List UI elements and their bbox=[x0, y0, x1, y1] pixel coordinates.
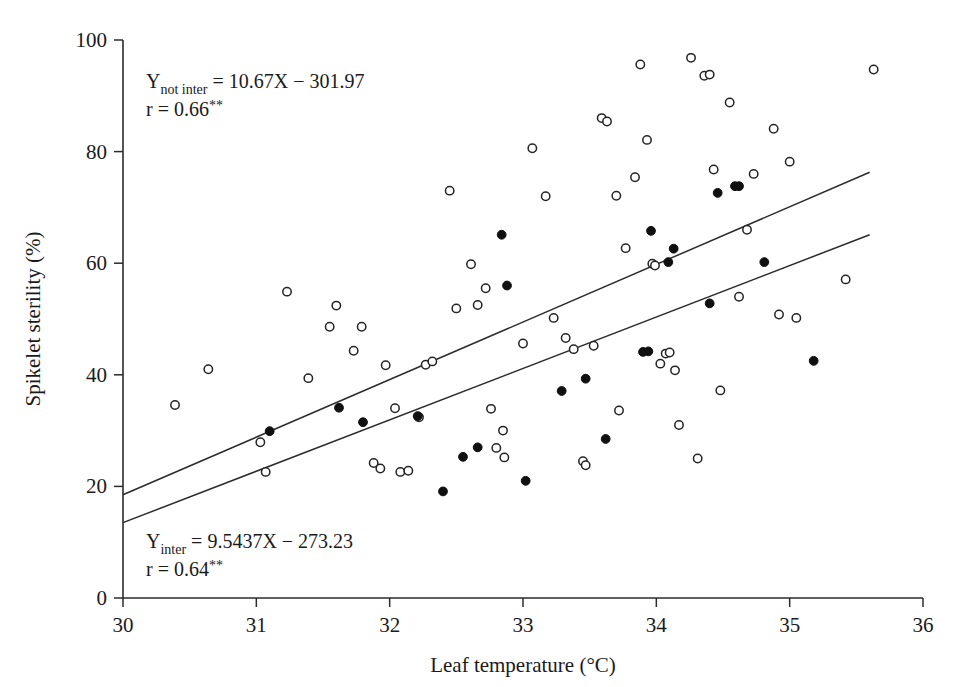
data-point bbox=[603, 117, 611, 125]
data-point bbox=[467, 260, 475, 268]
annotation-top-r: r = 0.66** bbox=[146, 98, 223, 120]
y-tick-label-100: 100 bbox=[76, 28, 108, 52]
annotation-bottom-rest: = 9.5437X − 273.23 bbox=[186, 530, 353, 552]
y-tick-label-60: 60 bbox=[86, 251, 107, 275]
data-point bbox=[775, 310, 783, 318]
annotation-top-equation: Ynot inter = 10.67X − 301.97 bbox=[146, 70, 365, 97]
annotation-intercepted: Yinter = 9.5437X − 273.23 r = 0.64** bbox=[146, 530, 353, 580]
data-point bbox=[735, 182, 744, 191]
data-point bbox=[499, 426, 507, 434]
data-point bbox=[171, 401, 179, 409]
data-point bbox=[601, 435, 610, 444]
data-point bbox=[841, 275, 849, 283]
data-point bbox=[769, 125, 777, 133]
data-point bbox=[749, 170, 757, 178]
y-tick-label-40: 40 bbox=[86, 363, 107, 387]
data-point bbox=[528, 144, 536, 152]
y-axis-title: Spikelet sterility (%) bbox=[21, 232, 45, 407]
regression-lines bbox=[123, 172, 870, 522]
data-point bbox=[283, 287, 291, 295]
data-point bbox=[705, 299, 714, 308]
data-point bbox=[665, 348, 673, 356]
x-tick-label-31: 31 bbox=[246, 613, 267, 637]
data-point bbox=[809, 356, 818, 365]
data-point bbox=[612, 191, 620, 199]
annotation-top-subscript: not inter bbox=[160, 82, 207, 97]
data-point bbox=[261, 468, 269, 476]
x-tick-label-30: 30 bbox=[113, 613, 134, 637]
data-point bbox=[705, 70, 713, 78]
data-point bbox=[481, 284, 489, 292]
data-point bbox=[561, 334, 569, 342]
annotation-top-rest: = 10.67X − 301.97 bbox=[208, 70, 365, 92]
data-point bbox=[581, 461, 589, 469]
data-point bbox=[621, 244, 629, 252]
data-point bbox=[549, 314, 557, 322]
data-point bbox=[675, 421, 683, 429]
data-point bbox=[332, 301, 340, 309]
y-axis-tick-labels: 020406080100 bbox=[76, 28, 108, 610]
data-point bbox=[693, 454, 701, 462]
data-point bbox=[519, 339, 527, 347]
data-point bbox=[656, 359, 664, 367]
data-point bbox=[569, 345, 577, 353]
annotation-bottom-var: Y bbox=[146, 530, 160, 552]
data-point bbox=[716, 386, 724, 394]
annotation-not-intercepted: Ynot inter = 10.67X − 301.97 r = 0.66** bbox=[146, 70, 365, 120]
data-point bbox=[709, 165, 717, 173]
y-tick-label-80: 80 bbox=[86, 140, 107, 164]
data-point bbox=[671, 366, 679, 374]
x-tick-label-35: 35 bbox=[779, 613, 800, 637]
data-point bbox=[500, 453, 508, 461]
data-point bbox=[669, 244, 678, 253]
annotation-bottom-r-text: r = 0.64 bbox=[146, 558, 209, 580]
y-tick-label-0: 0 bbox=[97, 586, 108, 610]
annotation-bottom-r: r = 0.64** bbox=[146, 558, 223, 580]
x-axis-ticks bbox=[123, 598, 923, 607]
data-point bbox=[265, 427, 274, 436]
x-axis-tick-labels: 30313233343536 bbox=[113, 613, 934, 637]
scatter-plot-figure: 30313233343536 020406080100 Leaf tempera… bbox=[0, 0, 978, 687]
x-tick-label-32: 32 bbox=[379, 613, 400, 637]
data-point bbox=[357, 323, 365, 331]
annotation-bottom-subscript: inter bbox=[160, 542, 186, 557]
data-point bbox=[792, 314, 800, 322]
data-point bbox=[644, 347, 653, 356]
x-tick-label-34: 34 bbox=[646, 613, 668, 637]
data-point bbox=[439, 487, 448, 496]
data-point bbox=[381, 361, 389, 369]
data-point bbox=[647, 226, 656, 235]
data-point bbox=[541, 192, 549, 200]
data-point bbox=[335, 403, 344, 412]
data-point bbox=[413, 412, 422, 421]
data-point bbox=[557, 387, 566, 396]
data-point bbox=[725, 98, 733, 106]
data-point bbox=[473, 443, 482, 452]
data-point bbox=[304, 374, 312, 382]
annotation-bottom-r-significance: ** bbox=[209, 558, 223, 573]
data-point bbox=[651, 261, 659, 269]
data-point bbox=[452, 304, 460, 312]
data-point bbox=[664, 258, 673, 267]
data-point bbox=[325, 323, 333, 331]
regression-line-intercepted bbox=[123, 235, 870, 523]
data-point bbox=[428, 357, 436, 365]
annotation-bottom-equation: Yinter = 9.5437X − 273.23 bbox=[146, 530, 353, 557]
data-point bbox=[359, 418, 368, 427]
data-point bbox=[391, 404, 399, 412]
data-point bbox=[445, 186, 453, 194]
data-point bbox=[497, 230, 506, 239]
data-point bbox=[785, 157, 793, 165]
data-point bbox=[404, 467, 412, 475]
data-point bbox=[687, 54, 695, 62]
annotation-top-var: Y bbox=[146, 70, 160, 92]
axes bbox=[123, 40, 923, 598]
data-point bbox=[521, 476, 530, 485]
series-intercepted-points bbox=[265, 182, 818, 496]
chart-canvas: 30313233343536 020406080100 Leaf tempera… bbox=[0, 0, 978, 687]
x-tick-label-36: 36 bbox=[913, 613, 934, 637]
data-point bbox=[376, 464, 384, 472]
annotation-top-r-text: r = 0.66 bbox=[146, 98, 209, 120]
data-point bbox=[487, 405, 495, 413]
annotation-top-r-significance: ** bbox=[209, 98, 223, 113]
